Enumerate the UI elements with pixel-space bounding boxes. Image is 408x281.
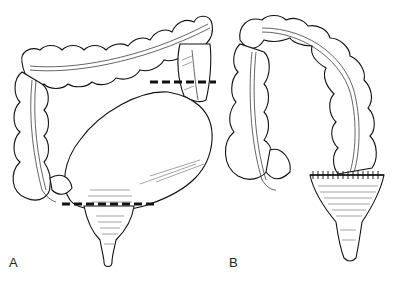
panel-label-a: A: [9, 255, 18, 270]
panel-label-b: B: [229, 255, 238, 270]
panel-b-ascending-colon: [225, 44, 290, 190]
panel-b-cecum: [266, 149, 290, 178]
panel-b-rectal-stump: [310, 175, 384, 261]
panel-b-drawing: [0, 0, 408, 281]
medical-illustration: A B: [0, 0, 408, 281]
